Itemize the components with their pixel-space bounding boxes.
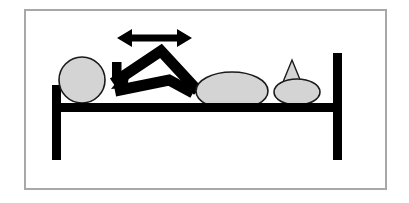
head-ellipse [59,57,105,103]
bed-positioning-illustration: Patient lying supine on bed with knees b… [0,0,409,203]
bed-left-leg [52,85,61,160]
pillow-ellipse [274,79,320,105]
figure-container: Patient lying supine on bed with knees b… [0,0,409,203]
bed-rail [52,103,342,112]
